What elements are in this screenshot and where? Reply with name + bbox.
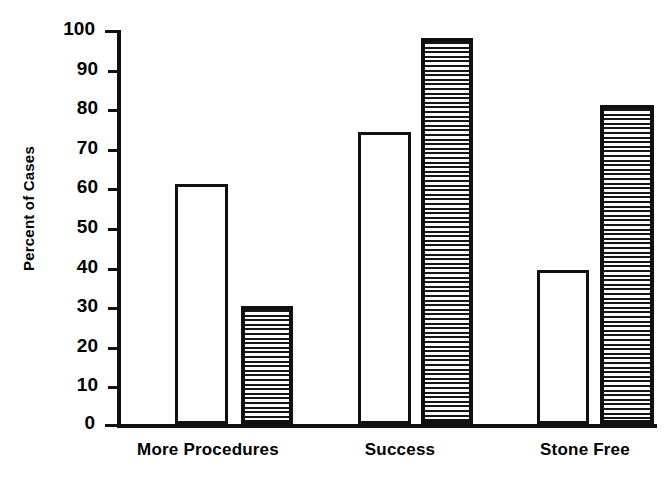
y-tick-label-70: 70: [77, 137, 98, 159]
x-category-label-more-procedures: More Procedures: [118, 440, 298, 460]
y-tick-0: 0: [105, 424, 117, 427]
y-tick-70: 70: [108, 149, 117, 152]
y-axis-label: Percent of Cases: [20, 119, 37, 299]
y-tick-10: 10: [108, 386, 117, 389]
y-tick-label-40: 40: [77, 256, 98, 278]
bar-stone-free-hatched: [600, 105, 654, 424]
bar-success-open: [358, 132, 411, 424]
y-tick-50: 50: [108, 228, 117, 231]
y-tick-40: 40: [108, 268, 117, 271]
y-tick-100: 100: [105, 30, 117, 33]
y-tick-label-60: 60: [77, 176, 98, 198]
y-tick-label-80: 80: [77, 97, 98, 119]
x-category-label-stone-free: Stone Free: [500, 440, 670, 460]
y-tick-label-30: 30: [77, 295, 98, 317]
bar-success-hatched: [421, 38, 473, 424]
y-tick-label-100: 100: [63, 18, 95, 40]
x-category-label-success: Success: [320, 440, 480, 460]
x-axis-line: [117, 424, 657, 428]
bar-stone-free-open: [537, 270, 589, 424]
y-tick-60: 60: [108, 188, 117, 191]
y-axis-line: [117, 30, 121, 428]
y-tick-label-10: 10: [77, 374, 98, 396]
y-tick-label-90: 90: [77, 58, 98, 80]
y-tick-label-50: 50: [77, 216, 98, 238]
plot-area: 100 90 80 70 60 50 40 30 20 10 0: [117, 30, 657, 428]
bar-chart-figure: Percent of Cases 100 90 80 70 60 50 40 3…: [0, 0, 670, 479]
y-tick-30: 30: [108, 307, 117, 310]
y-tick-80: 80: [108, 109, 117, 112]
y-tick-90: 90: [108, 70, 117, 73]
y-tick-label-0: 0: [84, 412, 95, 434]
bar-more-procedures-open: [175, 184, 228, 424]
y-tick-label-20: 20: [77, 335, 98, 357]
y-tick-20: 20: [108, 347, 117, 350]
bar-more-procedures-hatched: [241, 306, 293, 424]
